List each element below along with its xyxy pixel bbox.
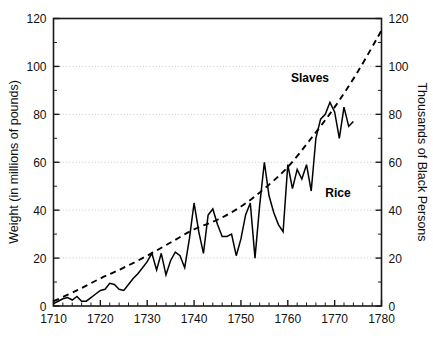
y-tick-label-60: 60 xyxy=(33,156,47,170)
y-tick-label-40: 40 xyxy=(33,204,47,218)
y2-tick-label-40: 40 xyxy=(389,204,403,218)
y-tick-label-20: 20 xyxy=(33,252,47,266)
y-tick-label-120: 120 xyxy=(26,12,46,26)
series-annotation-slaves: Slaves xyxy=(291,71,329,85)
y2-tick-label-0: 0 xyxy=(389,300,396,314)
y2-tick-label-100: 100 xyxy=(389,60,409,74)
x-tick-label-1750: 1750 xyxy=(228,312,255,326)
x-tick-label-1760: 1760 xyxy=(274,312,301,326)
chart-canvas: 17101720173017401750176017701780 0204060… xyxy=(0,0,433,342)
y2-axis-title: Thousands of Black Persons xyxy=(415,82,429,241)
x-tick-label-1730: 1730 xyxy=(134,312,161,326)
y-axis-title: Weight (in millions of pounds) xyxy=(7,80,21,244)
chart-background xyxy=(0,0,433,342)
y2-tick-label-80: 80 xyxy=(389,108,403,122)
x-tick-label-1770: 1770 xyxy=(321,312,348,326)
y2-tick-label-20: 20 xyxy=(389,252,403,266)
x-tick-label-1740: 1740 xyxy=(181,312,208,326)
x-tick-label-1710: 1710 xyxy=(40,312,67,326)
y2-tick-label-60: 60 xyxy=(389,156,403,170)
y-tick-label-100: 100 xyxy=(26,60,46,74)
y-tick-label-0: 0 xyxy=(40,300,47,314)
x-tick-label-1780: 1780 xyxy=(368,312,395,326)
series-annotation-rice: Rice xyxy=(325,186,351,200)
y2-tick-label-120: 120 xyxy=(389,12,409,26)
rice-and-slaves-chart: 17101720173017401750176017701780 0204060… xyxy=(0,0,433,342)
y-tick-label-80: 80 xyxy=(33,108,47,122)
x-tick-label-1720: 1720 xyxy=(87,312,114,326)
